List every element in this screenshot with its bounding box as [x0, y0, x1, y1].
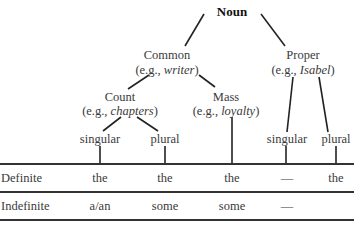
edge-common-count — [128, 75, 149, 89]
table-cell: the — [157, 171, 172, 186]
table-middle-rule — [0, 191, 354, 193]
leaf-plural-count: plural — [150, 132, 179, 146]
node-common: Common — [144, 48, 191, 62]
row-header: Indefinite — [1, 199, 50, 214]
example-word: writer — [164, 63, 195, 77]
row-header: Definite — [1, 171, 42, 186]
leaf-singular-count: singular — [80, 132, 120, 146]
node-proper-example: (e.g., Isabel) — [271, 63, 334, 77]
example-word: Isabel — [300, 63, 331, 77]
edge-common-mass — [199, 75, 215, 87]
edge-count-plural — [137, 117, 158, 131]
example-suffix: ) — [255, 104, 259, 118]
example-word: loyalty — [221, 104, 255, 118]
example-prefix: (e.g., — [193, 104, 221, 118]
example-prefix: (e.g., — [82, 104, 110, 118]
tree-connectors — [0, 0, 364, 229]
table-cell: a/an — [90, 199, 111, 214]
table-cell: some — [219, 199, 245, 214]
table-cell: the — [92, 171, 107, 186]
edge-count-singular — [103, 117, 121, 131]
table-cell: the — [224, 171, 239, 186]
node-mass-example: (e.g., loyalty) — [193, 104, 260, 118]
example-prefix: (e.g., — [135, 63, 163, 77]
table-cell: some — [152, 199, 178, 214]
leaf-singular-proper: singular — [267, 132, 307, 146]
table-cell: the — [328, 171, 343, 186]
example-prefix: (e.g., — [271, 63, 299, 77]
table-top-rule — [0, 163, 354, 165]
table-bottom-rule — [0, 219, 354, 221]
node-noun: Noun — [217, 5, 247, 19]
edge-noun-common — [185, 14, 204, 46]
example-suffix: ) — [154, 104, 158, 118]
example-suffix: ) — [194, 63, 198, 77]
node-count: Count — [105, 90, 136, 104]
example-word: chapters — [111, 104, 154, 118]
node-mass: Mass — [213, 90, 239, 104]
node-proper: Proper — [286, 48, 319, 62]
table-cell: — — [281, 199, 294, 214]
edge-noun-proper — [261, 14, 285, 46]
example-suffix: ) — [330, 63, 334, 77]
node-count-example: (e.g., chapters) — [82, 104, 158, 118]
leaf-plural-proper: plural — [321, 132, 350, 146]
table-cell: — — [281, 171, 294, 186]
node-common-example: (e.g., writer) — [135, 63, 198, 77]
edge-proper-plural — [319, 77, 328, 132]
edge-proper-singular — [287, 77, 293, 132]
